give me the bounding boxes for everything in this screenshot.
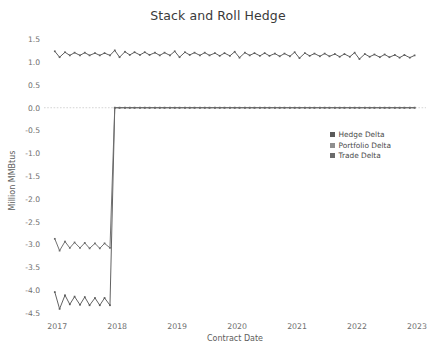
- plot-area: [44, 34, 426, 318]
- y-tick-label: 0.0: [6, 103, 40, 112]
- series-marker: [399, 57, 401, 59]
- series-marker: [399, 107, 401, 109]
- series-marker: [149, 107, 151, 109]
- y-tick-label: -0.5: [6, 126, 40, 135]
- series-marker: [369, 56, 371, 58]
- series-marker: [349, 56, 351, 58]
- series-marker: [54, 50, 56, 52]
- series-marker: [174, 50, 176, 52]
- series-marker: [169, 55, 171, 57]
- series-marker: [289, 55, 291, 57]
- series-marker: [219, 55, 221, 57]
- series-marker: [104, 297, 106, 299]
- series-marker: [194, 107, 196, 109]
- series-marker: [234, 107, 236, 109]
- series-marker: [59, 308, 61, 310]
- series-marker: [149, 54, 151, 56]
- series-marker: [409, 107, 411, 109]
- series-marker: [304, 107, 306, 109]
- series-marker: [244, 52, 246, 54]
- series-marker: [129, 54, 131, 56]
- series-marker: [109, 55, 111, 57]
- series-marker: [289, 107, 291, 109]
- series-marker: [334, 53, 336, 55]
- series-marker: [349, 107, 351, 109]
- series-marker: [334, 107, 336, 109]
- series-marker: [259, 55, 261, 57]
- series-trade-delta: [54, 50, 416, 60]
- series-marker: [89, 55, 91, 57]
- series-marker: [389, 107, 391, 109]
- series-marker: [324, 53, 326, 55]
- series-marker: [159, 107, 161, 109]
- series-marker: [134, 51, 136, 53]
- series-marker: [59, 56, 61, 58]
- legend-item[interactable]: Hedge Delta: [330, 130, 391, 139]
- series-marker: [79, 304, 81, 306]
- chart-legend: Hedge DeltaPortfolio DeltaTrade Delta: [330, 130, 391, 162]
- legend-label: Trade Delta: [339, 151, 381, 160]
- series-marker: [189, 107, 191, 109]
- series-marker: [319, 55, 321, 57]
- series-marker: [74, 296, 76, 298]
- series-marker: [104, 52, 106, 54]
- series-marker: [319, 107, 321, 109]
- series-marker: [64, 51, 66, 53]
- series-marker: [414, 107, 416, 109]
- legend-swatch-icon: [330, 153, 335, 158]
- series-marker: [314, 53, 316, 55]
- series-marker: [169, 107, 171, 109]
- chart-title: Stack and Roll Hedge: [0, 8, 436, 23]
- series-marker: [379, 56, 381, 58]
- legend-label: Hedge Delta: [339, 130, 385, 139]
- series-marker: [214, 107, 216, 109]
- series-marker: [134, 107, 136, 109]
- series-marker: [179, 107, 181, 109]
- series-marker: [99, 304, 101, 306]
- series-marker: [364, 107, 366, 109]
- series-marker: [329, 107, 331, 109]
- series-marker: [159, 55, 161, 57]
- series-marker: [224, 107, 226, 109]
- y-tick-label: 0.5: [6, 80, 40, 89]
- series-marker: [189, 54, 191, 56]
- x-tick-label: 2023: [395, 322, 436, 331]
- series-marker: [94, 297, 96, 299]
- series-marker: [139, 107, 141, 109]
- y-tick-label: -1.5: [6, 172, 40, 181]
- series-marker: [64, 294, 66, 296]
- series-marker: [284, 107, 286, 109]
- legend-item[interactable]: Portfolio Delta: [330, 141, 391, 150]
- legend-swatch-icon: [330, 132, 335, 137]
- y-tick-label: 1.0: [6, 58, 40, 67]
- series-marker: [154, 107, 156, 109]
- legend-item[interactable]: Trade Delta: [330, 151, 391, 160]
- series-marker: [254, 52, 256, 54]
- series-marker: [54, 291, 56, 293]
- series-marker: [84, 242, 86, 244]
- series-marker: [339, 56, 341, 58]
- series-marker: [79, 55, 81, 57]
- series-marker: [79, 247, 81, 249]
- series-marker: [384, 107, 386, 109]
- series-marker: [354, 52, 356, 54]
- series-portfolio-delta: [54, 107, 416, 252]
- series-marker: [199, 107, 201, 109]
- series-marker: [374, 54, 376, 56]
- series-marker: [124, 107, 126, 109]
- series-marker: [369, 107, 371, 109]
- series-marker: [254, 107, 256, 109]
- legend-label: Portfolio Delta: [339, 141, 391, 150]
- series-marker: [229, 55, 231, 57]
- series-marker: [299, 107, 301, 109]
- series-marker: [84, 296, 86, 298]
- series-marker: [99, 248, 101, 250]
- x-tick-label: 2022: [335, 322, 379, 331]
- series-marker: [284, 53, 286, 55]
- series-marker: [164, 52, 166, 54]
- series-marker: [269, 107, 271, 109]
- series-marker: [104, 243, 106, 245]
- series-marker: [114, 50, 116, 52]
- series-marker: [309, 107, 311, 109]
- series-marker: [404, 54, 406, 56]
